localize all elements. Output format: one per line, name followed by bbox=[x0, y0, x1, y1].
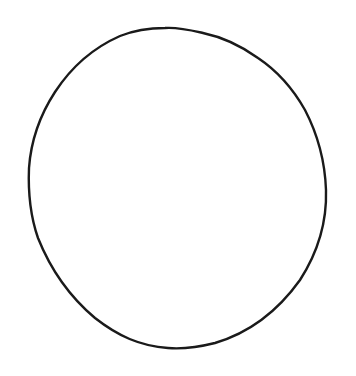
background bbox=[0, 0, 356, 376]
drawing-canvas bbox=[0, 0, 356, 376]
